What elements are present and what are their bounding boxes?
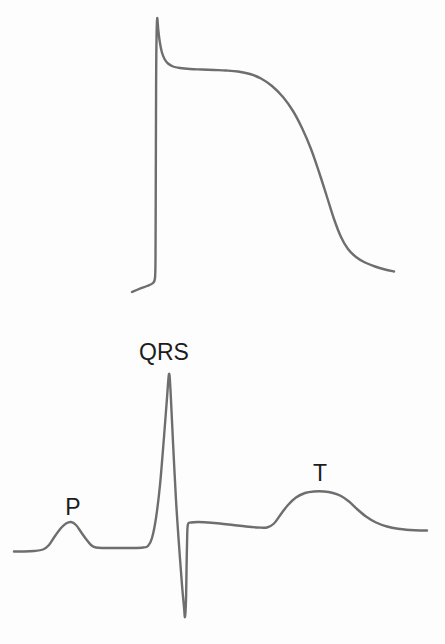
action-potential-curve	[132, 18, 394, 292]
physiology-figure: QRS P T	[0, 0, 445, 644]
ecg-label-t: T	[313, 460, 327, 486]
ecg-label-qrs: QRS	[139, 339, 189, 365]
ecg-label-p: P	[65, 494, 80, 520]
figure-canvas: QRS P T	[0, 0, 445, 644]
